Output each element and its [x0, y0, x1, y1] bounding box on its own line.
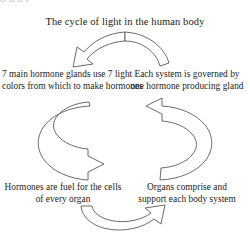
arrow-top-tail-icon — [125, 32, 169, 66]
node-label-glands: 7 main hormone glands use 7 light colors… — [2, 68, 124, 92]
node-label-hormones-fuel: Hormones are fuel for the cells of every… — [2, 181, 124, 205]
node-label-organs: Organs comprise and support each body sy… — [126, 181, 248, 205]
figure-canvas: g g g p The cycle of light in the human … — [0, 0, 250, 232]
node-label-glands-line1: 7 main hormone glands use 7 light — [2, 68, 124, 80]
node-label-systems-line2: one hormone producing gland — [126, 80, 248, 92]
node-label-hormones-fuel-line1: Hormones are fuel for the cells — [2, 181, 124, 193]
node-label-organs-line2: support each body system — [126, 193, 248, 205]
arrow-top-icon — [73, 32, 125, 67]
node-label-glands-line2: colors from which to make hormones — [2, 80, 124, 92]
arrow-right-icon — [146, 98, 212, 180]
node-label-organs-line1: Organs comprise and — [126, 181, 248, 193]
arrow-left-icon — [38, 102, 104, 180]
node-label-systems: Each system is governed by one hormone p… — [126, 68, 248, 92]
arrow-bottom-icon — [81, 205, 165, 230]
node-label-hormones-fuel-line2: of every organ — [2, 193, 124, 205]
node-label-systems-line1: Each system is governed by — [126, 68, 248, 80]
